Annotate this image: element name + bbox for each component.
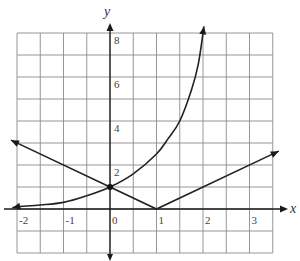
x-axis-arrow-icon: [280, 206, 288, 213]
series-curves: [11, 26, 279, 209]
x-axis: [4, 206, 288, 213]
y-tick-label: 2: [114, 166, 120, 178]
y-tick-label: 4: [114, 122, 120, 134]
absolute-value-line: [11, 140, 279, 209]
points: [107, 184, 113, 190]
exponential-curve: [12, 26, 204, 208]
function-graph: -2-10123 2468 x y: [0, 0, 300, 261]
y-axis-label: y: [102, 4, 111, 19]
x-tick-label: 0: [112, 214, 118, 226]
curve-arrow-icon: [199, 26, 206, 34]
y-tick-label: 8: [114, 34, 120, 46]
intersection-point: [107, 184, 113, 190]
y-axis-arrow-down-icon: [107, 254, 113, 261]
y-axis-arrow-up-icon: [107, 23, 114, 31]
x-tick-label: -2: [19, 214, 28, 226]
x-axis-label: x: [289, 201, 297, 216]
y-tick-label: 6: [114, 78, 120, 90]
x-tick-label: 2: [205, 214, 211, 226]
grid: [17, 33, 273, 253]
x-tick-label: 3: [252, 214, 258, 226]
x-tick-label: 1: [159, 214, 165, 226]
x-tick-label: -1: [66, 214, 75, 226]
x-tick-labels: -2-10123: [19, 214, 258, 226]
y-tick-labels: 2468: [114, 34, 120, 178]
